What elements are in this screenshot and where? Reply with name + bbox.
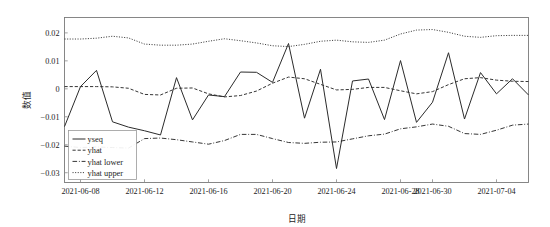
legend-label-yseq: yseq [88, 135, 104, 144]
x-tick-label: 2021-06-16 [189, 187, 227, 196]
y-tick-label: 0.02 [45, 29, 59, 38]
y-axis-title: 数值 [21, 91, 32, 109]
line-chart: 0.020.010−0.01−0.02−0.032021-06-082021-0… [0, 0, 550, 227]
y-tick-label: 0.01 [45, 57, 59, 66]
y-tick-label: 0 [55, 85, 59, 94]
x-axis-title: 日期 [288, 214, 306, 224]
x-tick-label: 2021-06-24 [317, 187, 355, 196]
legend-label-yhat: yhat [88, 146, 103, 155]
series-line-yhat-upper [65, 30, 529, 47]
legend-label-yhat-lower: yhat lower [88, 158, 124, 167]
x-tick-label: 2021-06-20 [253, 187, 291, 196]
chart-container: 0.020.010−0.01−0.02−0.032021-06-082021-0… [0, 0, 550, 227]
y-tick-label: −0.02 [41, 141, 60, 150]
x-tick-label: 2021-07-04 [477, 187, 515, 196]
legend-label-yhat-upper: yhat upper [88, 169, 124, 178]
x-tick-label: 2021-06-08 [61, 187, 99, 196]
x-tick-label: 2021-06-30 [413, 187, 451, 196]
x-tick-label: 2021-06-12 [125, 187, 163, 196]
y-tick-label: −0.01 [41, 113, 60, 122]
y-tick-label: −0.03 [41, 169, 60, 178]
